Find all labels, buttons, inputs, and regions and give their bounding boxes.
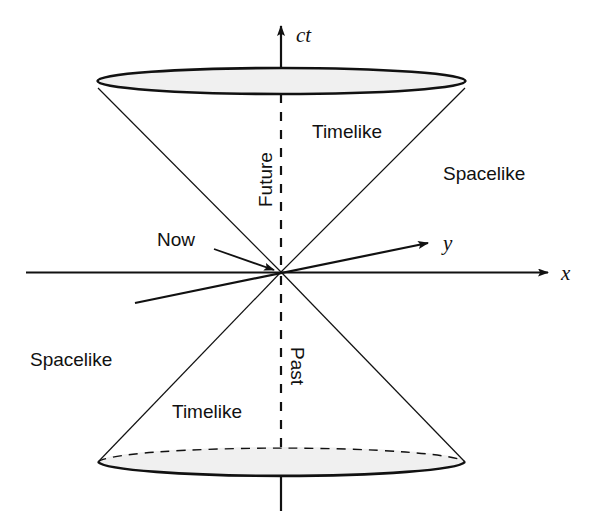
- now-label: Now: [157, 229, 195, 250]
- future-label: Future: [255, 152, 276, 207]
- timelike-label-upper: Timelike: [312, 121, 382, 142]
- light-cone-diagram-canvas: ct x y Now Future Past Timelike Timelike…: [0, 0, 592, 531]
- time-axis-label: ct: [296, 23, 312, 47]
- spacelike-label-left: Spacelike: [30, 349, 112, 370]
- timelike-label-lower: Timelike: [172, 401, 242, 422]
- spacelike-label-right: Spacelike: [443, 163, 525, 184]
- past-label: Past: [287, 347, 308, 386]
- light-cone-figure: ct x y Now Future Past Timelike Timelike…: [0, 0, 592, 531]
- x-axis-label: x: [560, 261, 571, 285]
- y-axis-label: y: [441, 231, 453, 255]
